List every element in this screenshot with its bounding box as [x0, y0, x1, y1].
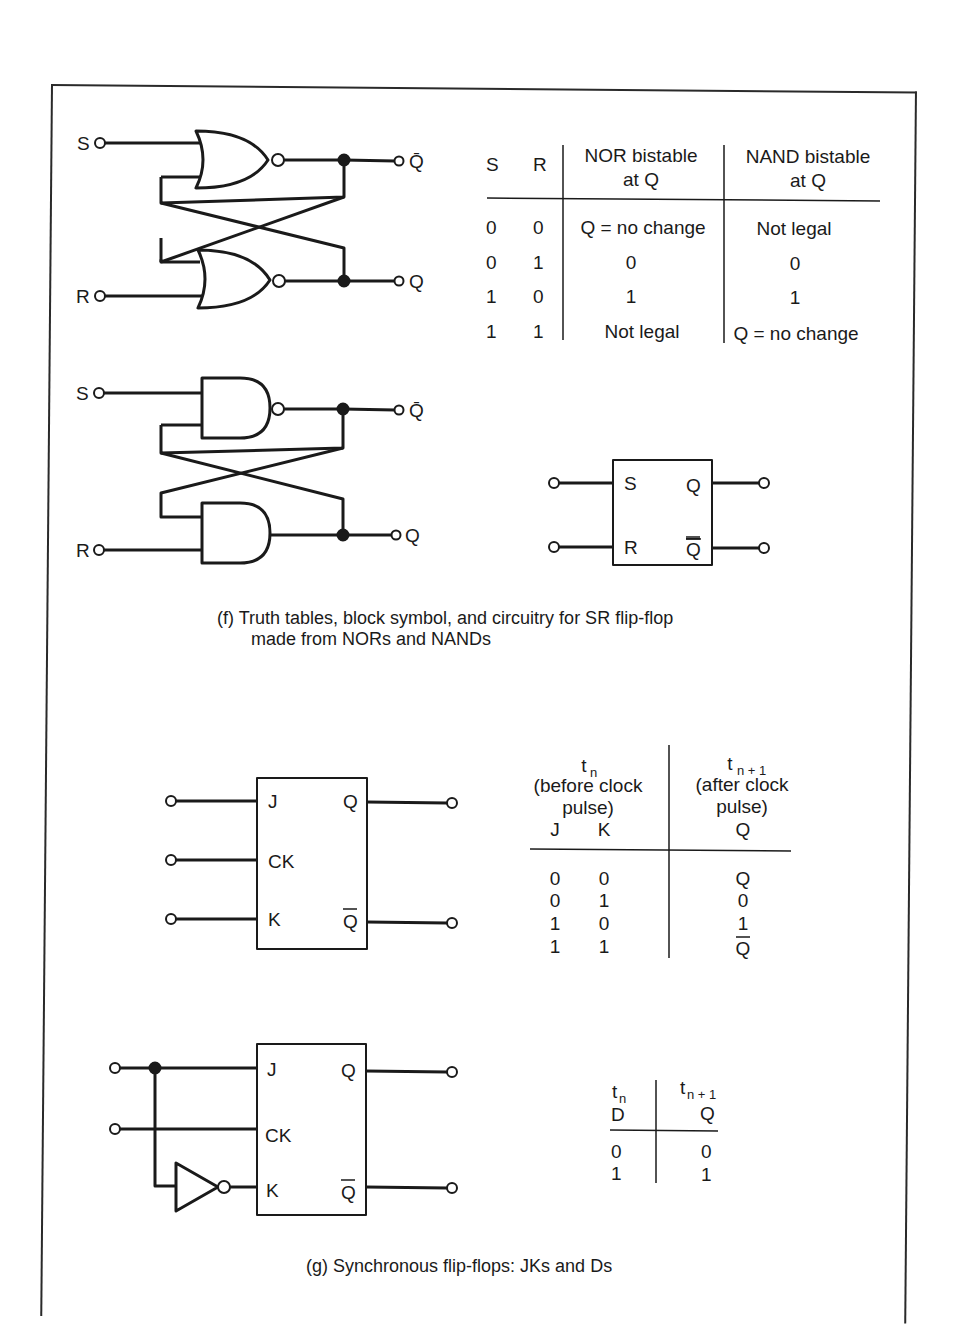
terminal-qbar-icon	[395, 406, 404, 415]
header-r: R	[533, 154, 547, 175]
header-q: Q	[700, 1103, 715, 1124]
header-k: K	[598, 819, 611, 840]
header-nand-line2: at Q	[790, 170, 826, 191]
header-d: D	[611, 1104, 625, 1125]
header-pulse: pulse)	[562, 797, 614, 818]
d-pin-k: K	[266, 1180, 279, 1201]
header-tn1: t	[680, 1077, 686, 1098]
terminal-q-icon	[447, 1067, 457, 1077]
cell: 0	[486, 252, 497, 273]
inversion-bubble-icon	[273, 275, 285, 287]
cell: 0	[738, 890, 749, 911]
terminal-s-icon	[94, 388, 104, 398]
header-pulse: pulse)	[716, 796, 768, 817]
terminal-r-icon	[95, 291, 105, 301]
label-r: R	[76, 540, 90, 561]
terminal-r-icon	[94, 545, 104, 555]
cell: 1	[738, 913, 749, 934]
terminal-s-icon	[549, 478, 559, 488]
nor-gate-top-icon	[196, 131, 268, 188]
d-pin-q: Q	[341, 1060, 356, 1081]
cell: 0	[626, 252, 637, 273]
jk-pin-j: J	[268, 791, 278, 812]
cell: Q = no change	[580, 217, 705, 238]
jk-pin-k: K	[268, 909, 281, 930]
cell: 1	[533, 252, 544, 273]
cell: 0	[611, 1141, 622, 1162]
cell: 1	[611, 1163, 622, 1184]
sr-truth-table: S R NOR bistable at Q NAND bistable at Q…	[486, 145, 870, 344]
header-tn1: t	[727, 753, 733, 774]
inversion-bubble-icon	[272, 154, 284, 166]
jk-block-symbol	[166, 778, 457, 949]
header-q: Q	[736, 819, 751, 840]
terminal-j-icon	[166, 796, 176, 806]
header-j: J	[550, 819, 560, 840]
cell: 1	[486, 286, 497, 307]
header-after-clock: (after clock	[696, 774, 789, 795]
label-qbar: Q̄	[409, 400, 424, 421]
cell: 0	[533, 217, 544, 238]
block-pin-r: R	[624, 537, 638, 558]
terminal-ck-icon	[110, 1124, 120, 1134]
cell-qbar: Q	[736, 938, 751, 959]
label-r: R	[76, 286, 90, 307]
label-s: S	[76, 383, 89, 404]
terminal-qbar-icon	[395, 157, 404, 166]
cell: 1	[790, 287, 801, 308]
cell: 0	[599, 868, 610, 889]
cell: 1	[550, 936, 561, 957]
nand-gate-bottom-icon	[202, 503, 270, 563]
jk-truth-table: t n (before clock pulse) J K t n + 1 (af…	[534, 753, 789, 959]
cell: 0	[486, 217, 497, 238]
terminal-s-icon	[95, 138, 105, 148]
terminal-qbar-icon	[759, 543, 769, 553]
block-pin-qbar: Q	[686, 539, 701, 560]
cell: Q = no change	[733, 323, 858, 344]
nand-gate-top-icon	[202, 378, 270, 438]
label-s: S	[77, 133, 90, 154]
header-nor-line2: at Q	[623, 169, 659, 190]
block-pin-s: S	[624, 473, 637, 494]
terminal-q-icon	[447, 798, 457, 808]
sr-block-symbol	[549, 460, 769, 565]
cell: 1	[701, 1164, 712, 1185]
header-before-clock: (before clock	[534, 775, 643, 796]
header-nor: NOR bistable	[585, 145, 698, 166]
cell: 0	[550, 868, 561, 889]
jk-pin-ck: CK	[268, 851, 295, 872]
block-pin-q: Q	[686, 475, 701, 496]
terminal-q-icon	[392, 531, 401, 540]
cell: 0	[599, 913, 610, 934]
inverter-gate-icon	[176, 1163, 218, 1211]
terminal-q-icon	[395, 277, 404, 286]
label-qbar: Q̄	[409, 151, 424, 172]
terminal-qbar-icon	[447, 918, 457, 928]
cell: 1	[599, 936, 610, 957]
label-q: Q	[409, 271, 424, 292]
label-q: Q	[405, 525, 420, 546]
header-tn: t	[612, 1081, 618, 1102]
caption-f-line2: made from NORs and NANDs	[251, 629, 491, 650]
cell: 0	[701, 1141, 712, 1162]
d-pin-j: J	[267, 1059, 277, 1080]
cell: 0	[790, 253, 801, 274]
nor-sr-latch	[95, 131, 404, 308]
cell: 0	[533, 286, 544, 307]
inversion-bubble-icon	[218, 1181, 230, 1193]
cell: 1	[550, 913, 561, 934]
header-tn1-sub: n + 1	[687, 1087, 716, 1102]
terminal-r-icon	[549, 542, 559, 552]
terminal-qbar-icon	[447, 1183, 457, 1193]
d-pin-qbar: Q	[341, 1182, 356, 1203]
inversion-bubble-icon	[272, 403, 284, 415]
cell: 1	[486, 321, 497, 342]
terminal-q-icon	[759, 478, 769, 488]
cell: 1	[626, 286, 637, 307]
header-s: S	[486, 154, 499, 175]
cell: 1	[599, 890, 610, 911]
nand-sr-latch	[94, 378, 404, 563]
d-pin-ck: CK	[265, 1125, 292, 1146]
cell: 1	[533, 321, 544, 342]
